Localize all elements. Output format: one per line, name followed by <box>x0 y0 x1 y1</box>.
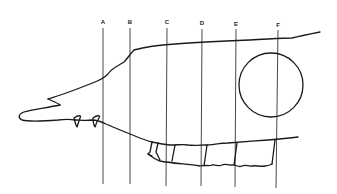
tooth-divider-4 <box>204 145 207 166</box>
label-d: D <box>200 20 205 26</box>
rostrum-join <box>48 99 60 105</box>
label-b: B <box>128 19 133 25</box>
tooth-divider-3 <box>172 145 175 161</box>
label-f: F <box>276 22 280 28</box>
tooth-1 <box>74 116 81 127</box>
section-line-e <box>235 29 236 187</box>
tooth-divider-6 <box>272 140 275 164</box>
label-e: E <box>234 21 238 27</box>
tooth-divider-1 <box>148 142 152 156</box>
jaw-cross-section-diagram: A B C D E F <box>0 0 337 194</box>
tooth-row-upper <box>152 137 298 145</box>
orbit-circle <box>239 53 303 117</box>
label-a: A <box>101 19 106 25</box>
section-line-d <box>201 29 202 186</box>
label-c: C <box>165 19 170 25</box>
lower-outline <box>75 120 152 142</box>
upper-outline <box>48 32 320 99</box>
rostrum-outline <box>19 105 75 121</box>
section-labels: A B C D E F <box>101 19 280 28</box>
tooth-divider-2 <box>156 143 160 160</box>
section-lines <box>103 28 278 188</box>
